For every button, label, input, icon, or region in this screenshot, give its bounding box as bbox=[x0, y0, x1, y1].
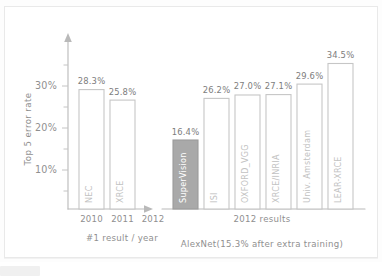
bar-chart: 30% 20% 10% Top 5 error rate 28.3% NEC bbox=[5, 7, 378, 258]
screenshot-page: 30% 20% 10% Top 5 error rate 28.3% NEC bbox=[0, 0, 382, 280]
x-axis-arrow-icon bbox=[144, 205, 153, 213]
bar-group-isi[interactable]: 26.2% ISI bbox=[203, 85, 231, 209]
bar-value-supervision: 16.4% bbox=[172, 127, 200, 137]
y-axis-arrow-icon bbox=[64, 33, 72, 42]
bar-value-lear-xrce: 34.5% bbox=[327, 50, 355, 60]
bar-value-univ-amsterdam: 29.6% bbox=[296, 71, 324, 81]
bar-group-oxford-vgg[interactable]: 27.0% OXFORD_VGG bbox=[234, 81, 262, 209]
y-tick-label-20: 20% bbox=[35, 122, 57, 133]
y-axis: 30% 20% 10% Top 5 error rate bbox=[23, 33, 72, 209]
bottom-left-chip bbox=[0, 266, 40, 276]
caption-left-group: #1 result / year bbox=[86, 233, 158, 243]
bar-group-lear-xrce[interactable]: 34.5% LEAR-XRCE bbox=[327, 50, 355, 209]
bar-label-xrce-inria: XRCE/INRIA bbox=[272, 154, 281, 203]
y-tick-label-10: 10% bbox=[35, 164, 57, 175]
y-axis-title: Top 5 error rate bbox=[23, 93, 33, 167]
bar-label-oxford-vgg: OXFORD_VGG bbox=[241, 144, 250, 203]
caption-right-group: 2012 results bbox=[234, 214, 291, 224]
x-tick-label-2010: 2010 bbox=[80, 214, 103, 224]
bar-value-xrce: 25.8% bbox=[109, 87, 137, 97]
y-tick-label-30: 30% bbox=[35, 80, 57, 91]
bar-group-nec[interactable]: 28.3% NEC bbox=[78, 76, 106, 209]
bar-label-xrce: XRCE bbox=[116, 181, 125, 203]
bottom-strip bbox=[0, 262, 382, 280]
bar-label-univ-amsterdam: Univ. Amsterdam bbox=[303, 130, 312, 203]
bar-label-nec: NEC bbox=[85, 185, 94, 203]
bar-value-isi: 26.2% bbox=[203, 85, 231, 95]
bar-group-xrce-inria[interactable]: 27.1% XRCE/INRIA bbox=[265, 81, 293, 209]
x-tick-labels: 2010 2011 2012 bbox=[80, 214, 164, 224]
bar-label-isi: ISI bbox=[210, 192, 219, 203]
slide-canvas: 30% 20% 10% Top 5 error rate 28.3% NEC bbox=[4, 6, 378, 258]
bar-group-supervision[interactable]: 16.4% SuperVision bbox=[172, 127, 200, 210]
slide-bottom-divider bbox=[4, 258, 378, 259]
caption-footnote: AlexNet(15.3% after extra training) bbox=[181, 239, 343, 249]
x-tick-label-2011: 2011 bbox=[111, 214, 134, 224]
bar-label-lear-xrce: LEAR-XRCE bbox=[334, 156, 343, 203]
bar-value-nec: 28.3% bbox=[78, 76, 106, 86]
bar-group-xrce[interactable]: 25.8% XRCE bbox=[109, 87, 137, 210]
bar-value-oxford-vgg: 27.0% bbox=[234, 81, 262, 91]
x-tick-label-2012: 2012 bbox=[142, 214, 165, 224]
bar-group-univ-amsterdam[interactable]: 29.6% Univ. Amsterdam bbox=[296, 71, 324, 210]
bar-label-supervision: SuperVision bbox=[179, 152, 188, 203]
bar-value-xrce-inria: 27.1% bbox=[265, 81, 293, 91]
